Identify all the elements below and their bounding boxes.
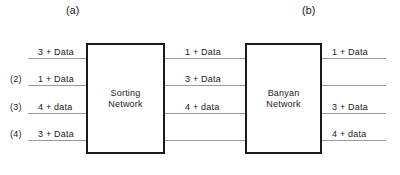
wire-interconnect-wires-0: [165, 58, 245, 59]
wire-output-wires-0: [322, 58, 386, 59]
wire-input-wires-2: [28, 113, 86, 114]
port-index-input-wires-1: (2): [10, 74, 22, 84]
port-index-input-wires-2: (3): [10, 102, 22, 112]
banyan-network-label: Banyan Network: [266, 88, 300, 110]
wire-label-output-wires-0: 1 + Data: [332, 47, 368, 57]
banyan-network-block: Banyan Network: [245, 43, 322, 154]
wire-input-wires-3: [28, 140, 86, 141]
panel-caption-b: (b): [302, 4, 315, 16]
wire-input-wires-1: [28, 85, 86, 86]
panel-caption-a: (a): [66, 4, 79, 16]
network-diagram: (a)(b)3 + Data(2)1 + Data(3)4 + data(4)3…: [0, 0, 400, 175]
wire-label-output-wires-2: 3 + Data: [332, 102, 368, 112]
wire-label-input-wires-3: 3 + Data: [38, 129, 74, 139]
wire-label-interconnect-wires-1: 3 + Data: [185, 74, 221, 84]
wire-label-input-wires-2: 4 + data: [38, 102, 72, 112]
wire-label-input-wires-1: 1 + Data: [38, 74, 74, 84]
wire-output-wires-3: [322, 140, 386, 141]
port-index-input-wires-3: (4): [10, 129, 22, 139]
wire-label-interconnect-wires-0: 1 + Data: [185, 47, 221, 57]
wire-input-wires-0: [28, 58, 86, 59]
wire-interconnect-wires-2: [165, 113, 245, 114]
wire-output-wires-1: [322, 85, 386, 86]
wire-output-wires-2: [322, 113, 386, 114]
sorting-network-label: Sorting Network: [108, 88, 142, 110]
wire-interconnect-wires-3: [165, 140, 245, 141]
wire-label-output-wires-3: 4 + data: [332, 129, 366, 139]
sorting-network-block: Sorting Network: [86, 43, 165, 154]
wire-label-input-wires-0: 3 + Data: [38, 47, 74, 57]
wire-interconnect-wires-1: [165, 85, 245, 86]
wire-label-interconnect-wires-2: 4 + data: [185, 102, 219, 112]
